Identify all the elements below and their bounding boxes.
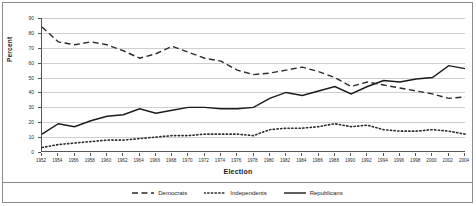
x-tick-label: 2002 xyxy=(443,158,453,163)
x-tick-label: 1958 xyxy=(85,158,95,163)
x-tick-label: 1996 xyxy=(394,158,404,163)
y-tick-label: 20 xyxy=(28,120,34,125)
x-tick-label: 1980 xyxy=(264,158,274,163)
legend-item-republicans[interactable]: Republicans xyxy=(284,190,343,196)
legend-item-independents[interactable]: Independents xyxy=(204,190,266,196)
x-tick-label: 1952 xyxy=(36,158,46,163)
x-tick-label: 1972 xyxy=(199,158,209,163)
x-tick-label: 1998 xyxy=(410,158,420,163)
chart-figure: Percent 0102030405060708090 195219541956… xyxy=(0,0,476,206)
x-tick-mark xyxy=(155,153,156,156)
plot-area xyxy=(41,18,465,152)
x-tick-label: 1956 xyxy=(68,158,78,163)
y-axis-tick-labels: 0102030405060708090 xyxy=(0,0,41,160)
x-tick-label: 1986 xyxy=(312,158,322,163)
x-tick-label: 1992 xyxy=(361,158,371,163)
x-tick-mark xyxy=(253,153,254,156)
x-tick-label: 1994 xyxy=(378,158,388,163)
series-line-democrats xyxy=(42,27,465,98)
x-axis-tick-labels: 1952195419561958196019621964196619681970… xyxy=(41,153,465,167)
x-tick-label: 1974 xyxy=(215,158,225,163)
x-tick-label: 1978 xyxy=(247,158,257,163)
x-tick-mark xyxy=(57,153,58,156)
y-tick-label: 70 xyxy=(28,45,34,50)
y-tick-label: 50 xyxy=(28,75,34,80)
y-tick-label: 80 xyxy=(28,30,34,35)
x-tick-mark xyxy=(220,153,221,156)
x-tick-mark xyxy=(90,153,91,156)
x-tick-mark xyxy=(139,153,140,156)
x-tick-mark xyxy=(236,153,237,156)
y-tick-label: 0 xyxy=(31,150,34,155)
x-tick-label: 1970 xyxy=(182,158,192,163)
legend-item-democrats[interactable]: Democrats xyxy=(132,190,187,196)
x-tick-mark xyxy=(122,153,123,156)
x-tick-mark xyxy=(301,153,302,156)
series-layer xyxy=(42,18,466,152)
series-line-independents xyxy=(42,124,465,148)
y-tick-label: 10 xyxy=(28,135,34,140)
y-tick-label: 60 xyxy=(28,60,34,65)
x-axis-title: Election xyxy=(0,168,476,175)
y-tick-label: 90 xyxy=(28,16,34,21)
x-tick-mark xyxy=(171,153,172,156)
chart-legend: DemocratsIndependentsRepublicans xyxy=(2,182,473,203)
x-tick-mark xyxy=(383,153,384,156)
x-tick-label: 1988 xyxy=(329,158,339,163)
x-tick-label: 1960 xyxy=(101,158,111,163)
x-tick-label: 1976 xyxy=(231,158,241,163)
x-tick-mark xyxy=(415,153,416,156)
x-tick-mark xyxy=(41,153,42,156)
x-tick-mark xyxy=(74,153,75,156)
y-tick-label: 40 xyxy=(28,90,34,95)
x-tick-mark xyxy=(366,153,367,156)
series-line-republicans xyxy=(42,66,465,134)
x-tick-mark xyxy=(350,153,351,156)
x-tick-label: 1990 xyxy=(345,158,355,163)
x-tick-label: 1964 xyxy=(133,158,143,163)
x-tick-label: 2004 xyxy=(459,158,469,163)
x-tick-label: 1954 xyxy=(52,158,62,163)
solid-line-swatch xyxy=(284,190,306,196)
legend-label: Democrats xyxy=(158,190,187,196)
dotted-line-swatch xyxy=(204,190,226,196)
x-tick-mark xyxy=(399,153,400,156)
x-tick-label: 1966 xyxy=(150,158,160,163)
x-tick-mark xyxy=(106,153,107,156)
dashed-line-swatch xyxy=(132,190,154,196)
y-tick-label: 30 xyxy=(28,105,34,110)
legend-label: Republicans xyxy=(310,190,343,196)
x-tick-label: 2000 xyxy=(426,158,436,163)
x-tick-mark xyxy=(285,153,286,156)
x-tick-mark xyxy=(334,153,335,156)
x-tick-mark xyxy=(269,153,270,156)
x-tick-mark xyxy=(187,153,188,156)
x-tick-mark xyxy=(431,153,432,156)
x-tick-label: 1968 xyxy=(166,158,176,163)
x-tick-mark xyxy=(318,153,319,156)
legend-label: Independents xyxy=(230,190,266,196)
x-tick-label: 1984 xyxy=(296,158,306,163)
x-tick-label: 1982 xyxy=(280,158,290,163)
x-tick-mark xyxy=(448,153,449,156)
x-tick-mark xyxy=(464,153,465,156)
x-tick-label: 1962 xyxy=(117,158,127,163)
x-tick-mark xyxy=(204,153,205,156)
